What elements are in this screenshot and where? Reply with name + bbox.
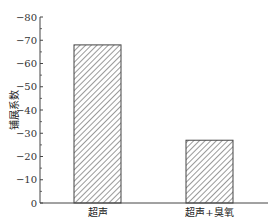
y-tick-label: −10 — [16, 174, 37, 185]
y-tick-label: −20 — [16, 151, 37, 162]
x-category-label: 超声+臭氧 — [185, 206, 233, 218]
y-tick-label: 0 — [31, 198, 37, 209]
bars — [74, 45, 233, 203]
y-axis-title: 铺展系数 — [8, 90, 20, 130]
bar-chart: 0−10−20−30−40−50−60−70−80 超声超声+臭氧 铺展系数 — [0, 0, 278, 221]
x-axis: 超声超声+臭氧 — [40, 203, 268, 218]
y-tick-label: −80 — [16, 12, 37, 23]
y-tick-label: −60 — [16, 58, 37, 69]
y-tick-label: −70 — [16, 35, 37, 46]
bar-0 — [74, 45, 121, 203]
bar-1 — [186, 140, 233, 203]
x-category-label: 超声 — [88, 206, 108, 218]
